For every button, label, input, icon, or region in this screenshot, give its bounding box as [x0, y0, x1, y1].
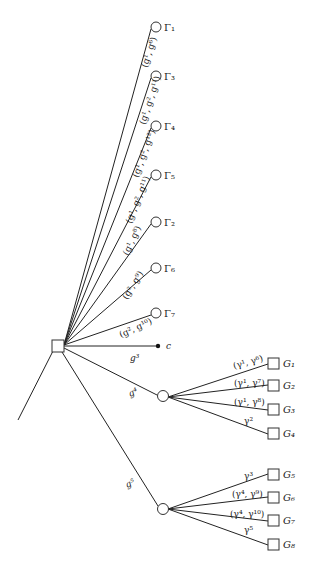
edge-label: g⁵: [124, 477, 137, 490]
leaf-label: G₆: [283, 492, 295, 503]
node-gamma6: [151, 263, 161, 273]
leaf-label: Γ₅: [164, 170, 175, 181]
leaf-label: G₈: [283, 539, 295, 550]
leaf-label: G₄: [283, 428, 295, 439]
node-gamma1: [151, 22, 161, 32]
node-gamma5: [151, 170, 161, 180]
incoming-edge: [18, 351, 53, 420]
node-G1: [268, 358, 279, 369]
leaf-label: c: [166, 341, 171, 351]
edge-label: (g¹, g², g¹¹): [124, 174, 152, 224]
node-G6: [268, 492, 279, 503]
edge-label: (γ¹, γ⁶): [232, 353, 264, 371]
node-G3: [268, 404, 279, 415]
leaf-label: Γ₆: [164, 263, 175, 274]
chance-node-g4: [158, 391, 169, 402]
edge-label: (g², g¹⁰): [118, 316, 154, 340]
node-gamma2: [151, 217, 161, 227]
edge-g4: [64, 348, 157, 395]
node-gamma4: [151, 121, 161, 131]
leaf-label: G₂: [283, 380, 295, 391]
node-gamma7: [151, 308, 161, 318]
leaf-label: G₇: [283, 515, 295, 526]
edge-label: (g², g⁹): [120, 269, 145, 301]
edge-g5: [62, 352, 158, 506]
edge-label: (g¹, g⁶): [139, 36, 158, 69]
edge-label: γ⁵: [244, 525, 253, 535]
leaf-label: Γ₁: [164, 22, 175, 33]
edge-label: γ³: [244, 471, 253, 481]
leaf-label: G₃: [283, 404, 295, 415]
edge-label: γ²: [244, 416, 253, 426]
edge-label: (g¹, g², g¹¹): [137, 75, 162, 126]
edge-label: (γ⁴, γ¹⁰): [230, 509, 264, 519]
node-G4: [268, 428, 279, 439]
edge-label: g⁴: [127, 386, 140, 399]
game-tree-diagram: Γ₁ Γ₃ Γ₄ Γ₅ Γ₂ Γ₆ Γ₇ c (g¹, g⁶) (g¹, g²,…: [0, 0, 311, 569]
leaf-label: Γ₄: [164, 121, 175, 132]
node-G8: [268, 539, 279, 550]
node-G7: [268, 515, 279, 526]
node-G5: [268, 469, 279, 480]
root-decision-node: [52, 340, 64, 352]
edge-label: (γ⁴, γ⁹): [232, 489, 263, 499]
edge-label: (γ¹, γ⁸): [234, 397, 265, 407]
leaf-label: G₁: [283, 358, 295, 369]
leaf-label: Γ₃: [164, 71, 175, 82]
leaf-label: Γ₇: [164, 308, 175, 319]
edge-label: g³: [130, 353, 140, 363]
chance-node-g5: [158, 504, 169, 515]
leaf-label: Γ₂: [164, 217, 175, 228]
leaf-label: G₅: [283, 469, 295, 480]
edge-label: (γ¹, γ⁷): [234, 378, 265, 388]
terminal-node-c: [156, 344, 160, 348]
node-G2: [268, 380, 279, 391]
